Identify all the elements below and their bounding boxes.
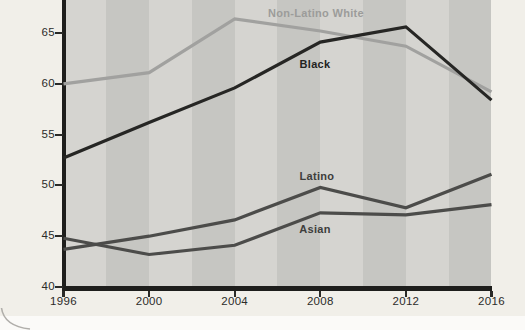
y-axis-tick: [55, 286, 63, 288]
y-axis-tick-label: 55: [28, 128, 55, 140]
x-axis-tick-label: 2000: [127, 295, 171, 307]
series-label-black: Black: [290, 58, 340, 70]
y-axis-tick: [55, 32, 63, 34]
plot-stripe: [64, 0, 107, 286]
plot-stripe: [235, 0, 278, 286]
plot-stripe: [106, 0, 149, 286]
x-axis-tick-label: 2008: [298, 295, 342, 307]
y-axis-line: [62, 0, 67, 291]
y-axis-tick-label: 50: [28, 178, 55, 190]
y-axis-tick: [55, 235, 63, 237]
y-axis-tick: [55, 134, 63, 136]
y-axis-tick-label: 40: [28, 280, 55, 292]
x-axis-tick-label: 2004: [213, 295, 257, 307]
plot-stripe: [406, 0, 449, 286]
series-label-non-latino-white: Non-Latino White: [246, 7, 386, 19]
plot-stripe: [320, 0, 363, 286]
plot-stripe: [363, 0, 406, 286]
y-axis-tick-label: 45: [28, 229, 55, 241]
series-label-asian: Asian: [288, 223, 342, 235]
plot-stripe: [192, 0, 235, 286]
x-axis-tick-label: 2016: [470, 295, 514, 307]
y-axis-tick: [55, 184, 63, 186]
plot-area: [64, 0, 492, 286]
x-axis-tick-label: 1996: [42, 295, 86, 307]
y-axis-tick-label: 60: [28, 77, 55, 89]
x-axis-line: [62, 286, 492, 291]
y-axis-tick-label: 65: [28, 26, 55, 38]
plot-stripe: [149, 0, 192, 286]
plot-stripe: [277, 0, 320, 286]
x-axis-tick-label: 2012: [384, 295, 428, 307]
series-label-latino: Latino: [290, 170, 344, 182]
y-axis-tick: [55, 83, 63, 85]
plot-stripe: [449, 0, 492, 286]
